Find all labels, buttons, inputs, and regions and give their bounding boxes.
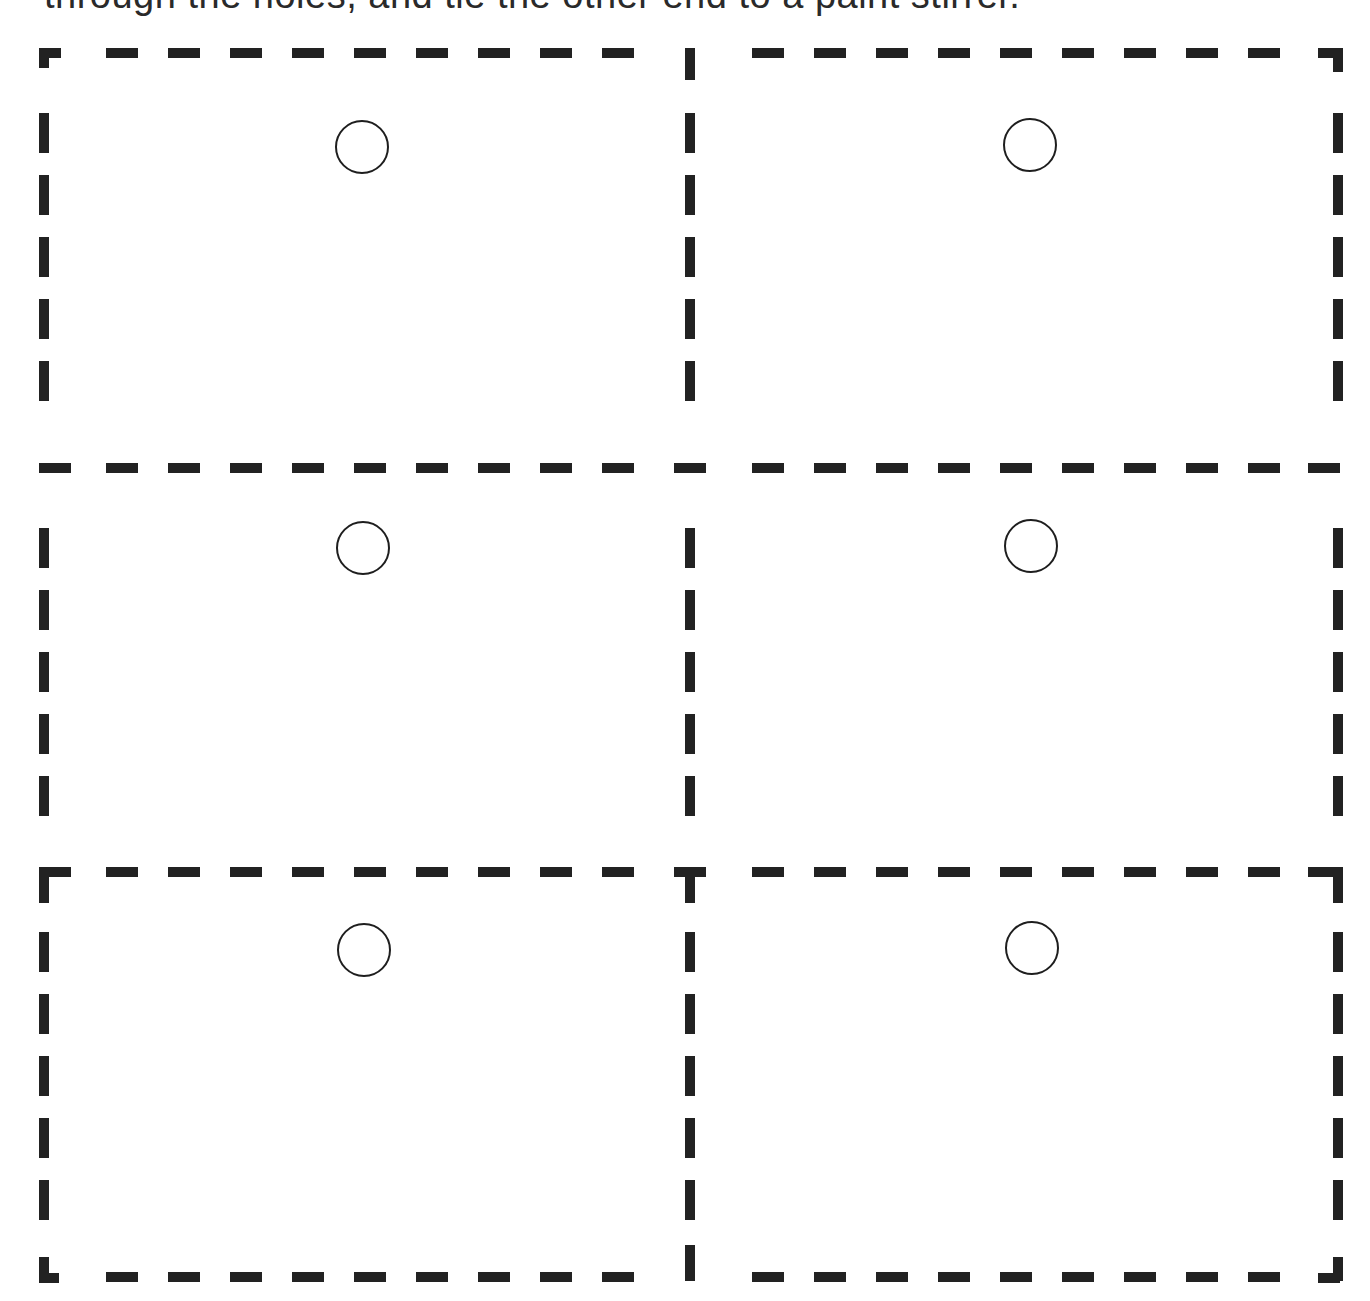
hole-circle-icon <box>337 923 391 977</box>
hole-circle-icon <box>335 120 389 174</box>
cutout-template-sheet <box>0 0 1370 1301</box>
cut-line-group <box>39 48 1343 1283</box>
hole-circle-icon <box>1005 921 1059 975</box>
dashed-cut-lines <box>0 0 1370 1301</box>
hole-circle-icon <box>1003 118 1057 172</box>
hole-circle-icon <box>1004 519 1058 573</box>
hole-circle-icon <box>336 521 390 575</box>
